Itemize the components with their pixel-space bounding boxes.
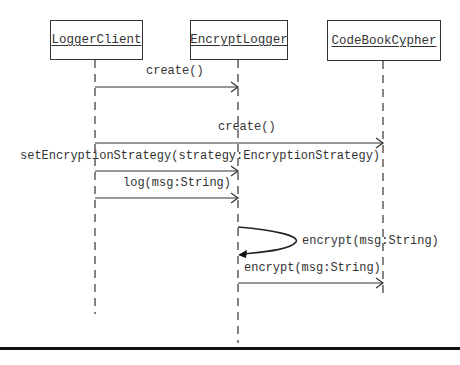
message-label-set-encryption-strategy: setEncryptionStrategy(strategy:Encryptio… bbox=[20, 149, 380, 163]
participant-label: EncryptLogger bbox=[190, 33, 288, 47]
message-label-encrypt: encrypt(msg:String) bbox=[244, 261, 381, 275]
message-arrow-log bbox=[95, 193, 238, 203]
participant-codebookcypher: CodeBookCypher bbox=[327, 20, 441, 61]
message-arrow-self-encrypt bbox=[238, 227, 296, 258]
message-arrow-set-encryption-strategy bbox=[95, 166, 238, 176]
participant-encryptlogger: EncryptLogger bbox=[190, 20, 288, 60]
participant-label: LoggerClient bbox=[51, 33, 141, 47]
message-label-log: log(msg:String) bbox=[123, 176, 231, 190]
message-label-create-2: create() bbox=[218, 120, 276, 134]
message-arrow-create-encryptlogger bbox=[95, 82, 238, 92]
message-label-create-1: create() bbox=[146, 64, 204, 78]
participant-label: CodeBookCypher bbox=[331, 34, 436, 48]
participant-loggerclient: LoggerClient bbox=[50, 20, 143, 60]
message-arrow-encrypt-codebookcypher bbox=[238, 278, 383, 288]
bottom-divider bbox=[0, 347, 460, 350]
message-arrow-create-codebookcypher bbox=[95, 138, 383, 148]
message-label-self-encrypt: encrypt(msg:String) bbox=[302, 234, 439, 248]
